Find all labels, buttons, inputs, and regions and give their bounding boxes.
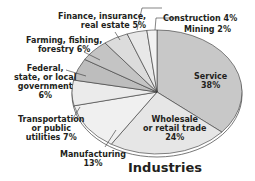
label-finance-line1: Finance, insurance,: [58, 12, 146, 21]
label-mining: Mining 2%: [184, 25, 231, 34]
label-manufacturing-value: 13%: [60, 159, 126, 168]
label-finance-line2: real estate 5%: [58, 21, 146, 30]
chart-title: Industries: [128, 160, 202, 175]
label-wholesale-line1: Wholesale: [143, 115, 206, 124]
label-farming-line2: forestry 6%: [26, 45, 102, 54]
label-farming: Farming, fishing, forestry 6%: [26, 36, 102, 54]
label-finance: Finance, insurance, real estate 5%: [58, 12, 146, 30]
label-government: Federal, state, or local government 6%: [14, 64, 76, 100]
label-government-value: 6%: [14, 91, 76, 100]
label-farming-line1: Farming, fishing,: [26, 36, 102, 45]
label-wholesale-value: 24%: [143, 133, 206, 142]
label-transport-line3: utilities 7%: [18, 133, 85, 142]
label-wholesale-line2: or retail trade: [143, 124, 206, 133]
label-service-value: 38%: [194, 81, 227, 90]
label-government-line3: government: [14, 82, 76, 91]
label-manufacturing-name: Manufacturing: [60, 150, 126, 159]
label-service: Service 38%: [194, 72, 227, 90]
label-manufacturing: Manufacturing 13%: [60, 150, 126, 168]
label-wholesale: Wholesale or retail trade 24%: [143, 115, 206, 142]
label-construction: Construction 4%: [163, 14, 237, 23]
label-transportation: Transportation or public utilities 7%: [18, 115, 85, 142]
label-transport-line1: Transportation: [18, 115, 85, 124]
label-government-line1: Federal,: [14, 64, 76, 73]
label-government-line2: state, or local: [14, 73, 76, 82]
label-service-name: Service: [194, 72, 227, 81]
label-transport-line2: or public: [18, 124, 85, 133]
